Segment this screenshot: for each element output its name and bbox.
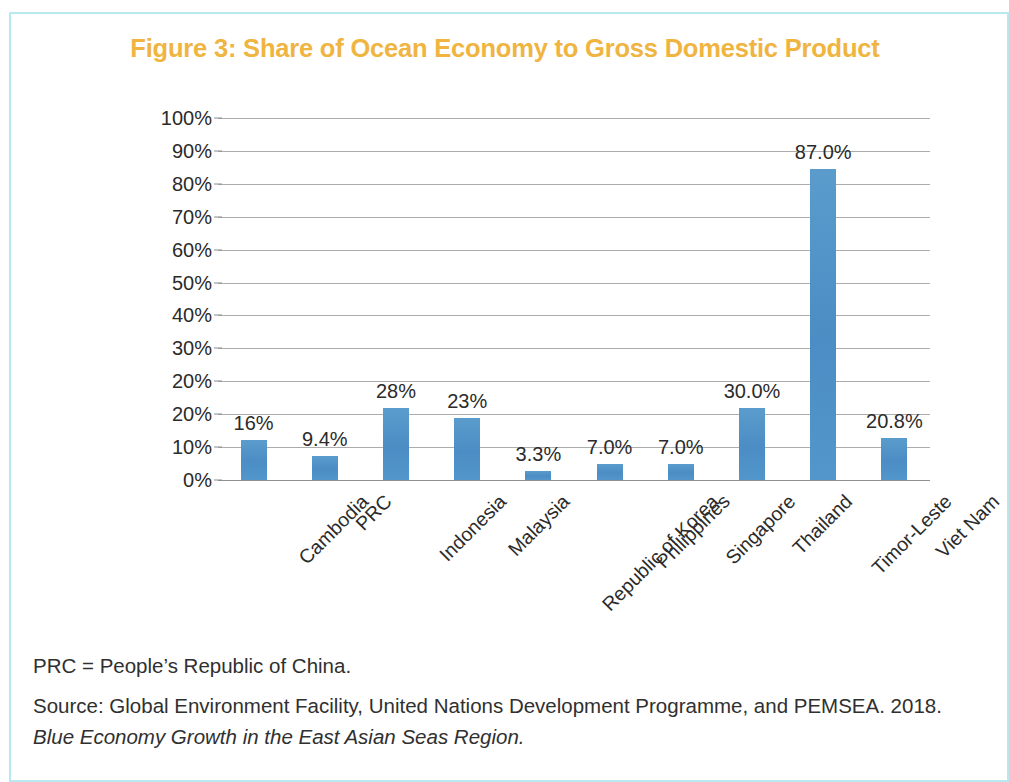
x-axis-category-label: Singapore	[721, 490, 800, 569]
y-axis-tick-label: 100%	[140, 107, 212, 130]
source-publication-title: Blue Economy Growth in the East Asian Se…	[33, 721, 963, 752]
bar[interactable]	[525, 471, 551, 480]
bar[interactable]	[597, 464, 623, 480]
bar-value-label: 3.3%	[516, 443, 562, 466]
bar-value-label: 7.0%	[658, 436, 704, 459]
bar-group: 9.4%	[289, 118, 360, 480]
x-axis-category-label: Thailand	[788, 490, 857, 559]
x-axis-category-label: Malaysia	[504, 490, 575, 561]
bar-value-label: 23%	[447, 390, 487, 413]
bar-value-label: 28%	[376, 380, 416, 403]
bar-group: 30.0%	[716, 118, 787, 480]
y-axis-tick-label: 70%	[140, 205, 212, 228]
bar-group: 7.0%	[645, 118, 716, 480]
bar-group: 3.3%	[503, 118, 574, 480]
abbreviation-note: PRC = People’s Republic of China.	[33, 650, 963, 681]
bar[interactable]	[810, 169, 836, 480]
bar[interactable]	[241, 440, 267, 480]
bar[interactable]	[739, 408, 765, 480]
y-axis-tick-label: 0%	[140, 469, 212, 492]
bar-group: 16%	[218, 118, 289, 480]
bar[interactable]	[668, 464, 694, 480]
bar[interactable]	[383, 408, 409, 480]
y-axis-tick-label: 30%	[140, 337, 212, 360]
bar-value-label: 9.4%	[302, 428, 348, 451]
y-axis-tick-label: 90%	[140, 139, 212, 162]
source-note: Source: Global Environment Facility, Uni…	[33, 690, 963, 721]
x-axis-category-label: Indonesia	[435, 490, 511, 566]
bar-group: 87.0%	[788, 118, 859, 480]
bar-value-label: 30.0%	[724, 380, 781, 403]
figure-notes: PRC = People’s Republic of China. Source…	[33, 650, 963, 752]
y-axis-tick-label: 40%	[140, 304, 212, 327]
y-axis-tick-label: 60%	[140, 238, 212, 261]
bar-group: 7.0%	[574, 118, 645, 480]
y-axis-tick-label: 10%	[140, 436, 212, 459]
y-axis: 100%90%80%70%60%50%40%30%20%20%10%0%	[136, 118, 212, 480]
bar-group: 20.8%	[859, 118, 930, 480]
y-axis-tick-label: 80%	[140, 172, 212, 195]
bar[interactable]	[881, 438, 907, 480]
x-axis-category-labels: CambodiaPRCIndonesiaMalaysiaRepublic of …	[218, 484, 930, 614]
y-axis-tick-label: 50%	[140, 271, 212, 294]
bar-value-label: 7.0%	[587, 436, 633, 459]
y-axis-tick-label: 20%	[140, 370, 212, 393]
bar[interactable]	[312, 456, 338, 480]
bar-group: 23%	[432, 118, 503, 480]
bar-value-label: 16%	[234, 412, 274, 435]
y-axis-tick-label: 20%	[140, 403, 212, 426]
axis-baseline	[218, 480, 930, 481]
bar[interactable]	[454, 418, 480, 480]
bar-group: 28%	[360, 118, 431, 480]
bar-value-label: 87.0%	[795, 141, 852, 164]
bar-value-label: 20.8%	[866, 410, 923, 433]
plot-area: 16%9.4%28%23%3.3%7.0%7.0%30.0%87.0%20.8%	[218, 118, 930, 480]
bar-chart: 100%90%80%70%60%50%40%30%20%20%10%0% 16%…	[0, 0, 987, 620]
